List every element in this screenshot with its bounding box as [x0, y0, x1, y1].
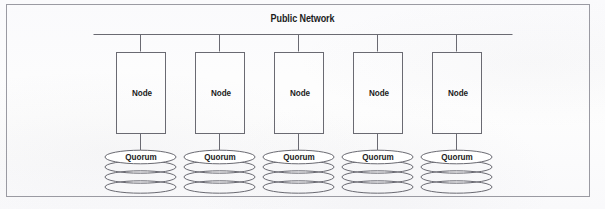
node-box-1[interactable]: Node	[116, 52, 166, 134]
node-box-4[interactable]: Node	[353, 52, 403, 134]
cluster-diagram: Public Network	[0, 0, 605, 209]
node-box-5[interactable]: Node	[432, 52, 482, 134]
quorum-label-2: Quorum	[187, 152, 252, 162]
quorum-label-4: Quorum	[345, 152, 410, 162]
node-box-2[interactable]: Node	[195, 52, 245, 134]
quorum-label-1: Quorum	[108, 152, 173, 162]
quorum-label-5: Quorum	[424, 152, 489, 162]
node-label-5: Node	[435, 88, 480, 98]
node-label-4: Node	[356, 88, 401, 98]
node-label-1: Node	[119, 88, 164, 98]
node-box-3[interactable]: Node	[274, 52, 324, 134]
node-label-2: Node	[198, 88, 243, 98]
quorum-label-3: Quorum	[266, 152, 331, 162]
node-label-3: Node	[277, 88, 322, 98]
